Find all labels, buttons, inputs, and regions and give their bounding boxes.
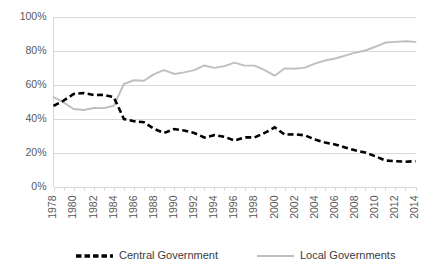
x-tick-label-2000: 2000 — [268, 195, 280, 219]
y-tick-label-80: 80% — [25, 44, 46, 56]
x-tick-label-2012: 2012 — [388, 195, 400, 219]
x-tick-label-2014: 2014 — [408, 195, 420, 219]
x-tick-label-1994: 1994 — [207, 195, 219, 219]
x-tick-label-1992: 1992 — [187, 195, 199, 219]
gridlines — [54, 17, 416, 188]
y-tick-label-100: 100% — [20, 10, 47, 22]
legend-label-central-government: Central Government — [119, 249, 218, 261]
x-tick-label-1980: 1980 — [66, 195, 78, 219]
y-tick-label-60: 60% — [25, 78, 46, 90]
y-tick-label-0: 0% — [31, 180, 46, 192]
x-tick-label-1982: 1982 — [87, 195, 99, 219]
chart-legend: Central GovernmentLocal Governments — [76, 249, 396, 261]
x-tick-label-2004: 2004 — [308, 195, 320, 219]
y-axis-labels: 0%20%40%60%80%100% — [20, 10, 47, 192]
x-axis-labels: 1978198019821984198619881990199219941996… — [46, 195, 420, 219]
x-tick-label-1998: 1998 — [247, 195, 259, 219]
x-tick-label-1988: 1988 — [147, 195, 159, 219]
x-tick-label-2006: 2006 — [328, 195, 340, 219]
data-series — [54, 41, 416, 161]
x-tick-label-2008: 2008 — [348, 195, 360, 219]
x-tick-label-2010: 2010 — [368, 195, 380, 219]
legend-label-local-governments: Local Governments — [300, 249, 396, 261]
x-tick-label-2002: 2002 — [288, 195, 300, 219]
y-tick-label-20: 20% — [25, 146, 46, 158]
series-line-central-government — [54, 93, 416, 162]
x-tick-label-1984: 1984 — [107, 195, 119, 219]
y-tick-label-40: 40% — [25, 112, 46, 124]
x-tick-label-1996: 1996 — [227, 195, 239, 219]
line-chart: 0%20%40%60%80%100% 197819801982198419861… — [0, 0, 429, 273]
x-tick-label-1990: 1990 — [167, 195, 179, 219]
chart-canvas: 0%20%40%60%80%100% 197819801982198419861… — [0, 0, 429, 273]
x-tick-label-1986: 1986 — [127, 195, 139, 219]
x-tick-label-1978: 1978 — [46, 195, 58, 219]
